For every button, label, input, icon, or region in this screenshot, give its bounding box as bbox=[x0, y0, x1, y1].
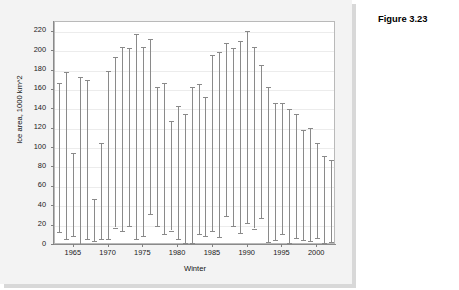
x-axis-tick bbox=[142, 244, 143, 247]
y-axis-tick bbox=[51, 166, 54, 167]
range-bar bbox=[122, 47, 123, 231]
range-bar-cap bbox=[64, 239, 69, 240]
range-bar-cap bbox=[190, 87, 195, 88]
y-axis-tick-label: 40 bbox=[12, 201, 46, 209]
x-axis-tick-label: 1965 bbox=[58, 249, 88, 257]
range-bar bbox=[331, 160, 332, 242]
range-bar bbox=[94, 199, 95, 241]
range-bar bbox=[310, 128, 311, 241]
x-axis-tick-label: 1980 bbox=[162, 249, 192, 257]
range-bar-cap bbox=[176, 106, 181, 107]
y-axis-tick-label: 220 bbox=[12, 26, 46, 34]
range-bar-cap bbox=[224, 216, 229, 217]
range-bar bbox=[101, 143, 102, 239]
range-bar-cap bbox=[301, 240, 306, 241]
range-bar-cap bbox=[148, 39, 153, 40]
range-bar-cap bbox=[238, 41, 243, 42]
range-bar-cap bbox=[57, 83, 62, 84]
range-bar-cap bbox=[134, 239, 139, 240]
range-bar-cap bbox=[217, 52, 222, 53]
range-bar bbox=[247, 31, 248, 223]
y-axis-tick bbox=[51, 128, 54, 129]
range-bar-cap bbox=[92, 241, 97, 242]
range-bar bbox=[233, 48, 234, 225]
range-bar-cap bbox=[99, 143, 104, 144]
range-bar-cap bbox=[106, 71, 111, 72]
range-bar bbox=[178, 106, 179, 239]
range-bar bbox=[157, 87, 158, 226]
x-axis-tick-label: 1985 bbox=[197, 249, 227, 257]
range-bar bbox=[136, 34, 137, 240]
range-bar bbox=[108, 71, 109, 239]
range-bar-cap bbox=[141, 236, 146, 237]
range-bar bbox=[240, 41, 241, 233]
range-bar-cap bbox=[113, 57, 118, 58]
y-axis-tick bbox=[51, 205, 54, 206]
range-bar-cap bbox=[287, 109, 292, 110]
range-bar bbox=[226, 43, 227, 216]
range-bar bbox=[185, 114, 186, 243]
range-bar-cap bbox=[120, 47, 125, 48]
plot-area bbox=[54, 21, 335, 244]
y-axis-tick-label: 60 bbox=[12, 181, 46, 189]
range-bar-cap bbox=[71, 153, 76, 154]
y-axis-tick bbox=[51, 108, 54, 109]
range-bar bbox=[303, 130, 304, 241]
range-bar-cap bbox=[127, 48, 132, 49]
range-bar bbox=[261, 65, 262, 218]
y-axis-label: Ice area, 1000 km^2 bbox=[15, 55, 24, 165]
range-bar-cap bbox=[252, 229, 257, 230]
range-bar-cap bbox=[155, 87, 160, 88]
range-bar-cap bbox=[197, 84, 202, 85]
x-axis-tick bbox=[316, 244, 317, 247]
y-axis-tick bbox=[51, 147, 54, 148]
range-bar-cap bbox=[78, 244, 83, 245]
range-bar bbox=[289, 109, 290, 243]
range-bar bbox=[73, 153, 74, 236]
range-bar-cap bbox=[71, 236, 76, 237]
range-bar-cap bbox=[148, 214, 153, 215]
x-axis-tick bbox=[212, 244, 213, 247]
x-axis-tick-label: 1995 bbox=[266, 249, 296, 257]
range-bar-cap bbox=[197, 234, 202, 235]
y-axis-tick bbox=[51, 244, 54, 245]
range-bar-cap bbox=[210, 231, 215, 232]
range-bar bbox=[164, 83, 165, 234]
range-bar-cap bbox=[210, 55, 215, 56]
range-bar bbox=[199, 84, 200, 234]
range-bar-cap bbox=[113, 228, 118, 229]
range-bar-cap bbox=[329, 160, 334, 161]
y-axis-tick bbox=[51, 89, 54, 90]
range-bar-cap bbox=[85, 239, 90, 240]
y-axis-tick-label: 200 bbox=[12, 46, 46, 54]
range-bar-cap bbox=[329, 242, 334, 243]
range-bar bbox=[143, 47, 144, 236]
range-bar-cap bbox=[78, 77, 83, 78]
range-bar-cap bbox=[231, 226, 236, 227]
panel-shadow-right bbox=[352, 4, 356, 288]
range-bar-cap bbox=[287, 243, 292, 244]
range-bar-cap bbox=[162, 234, 167, 235]
y-axis-tick bbox=[51, 50, 54, 51]
range-bar bbox=[80, 77, 81, 244]
range-bar-cap bbox=[273, 240, 278, 241]
y-axis-tick bbox=[51, 31, 54, 32]
range-bar-cap bbox=[294, 238, 299, 239]
range-bar-cap bbox=[301, 130, 306, 131]
range-bar-cap bbox=[245, 223, 250, 224]
x-axis-tick bbox=[108, 244, 109, 247]
range-bar-cap bbox=[245, 31, 250, 32]
range-bar-cap bbox=[183, 114, 188, 115]
range-bar-cap bbox=[155, 226, 160, 227]
x-axis-tick-label: 1975 bbox=[127, 249, 157, 257]
range-bar-cap bbox=[203, 236, 208, 237]
range-bar-cap bbox=[308, 128, 313, 129]
range-bar-cap bbox=[322, 156, 327, 157]
y-axis-tick-label: 20 bbox=[12, 220, 46, 228]
range-bar-cap bbox=[217, 237, 222, 238]
x-axis-tick-label: 2000 bbox=[301, 249, 331, 257]
y-axis-tick bbox=[51, 70, 54, 71]
range-bar-cap bbox=[315, 143, 320, 144]
range-bar-cap bbox=[231, 48, 236, 49]
range-bar bbox=[115, 57, 116, 228]
